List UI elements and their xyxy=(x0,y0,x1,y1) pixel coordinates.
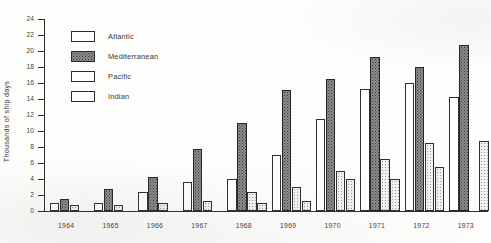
y-tick-mark xyxy=(38,131,45,132)
legend-swatch xyxy=(71,71,95,82)
legend-label: Mediterranean xyxy=(108,52,158,61)
bar-indian-1971 xyxy=(390,179,400,211)
x-axis-line xyxy=(44,211,488,212)
bar-mediterranean-1968 xyxy=(237,123,247,211)
y-tick-mark xyxy=(38,67,45,68)
bar-group-1968 xyxy=(227,19,267,211)
bar-atlantic-1970 xyxy=(316,119,326,211)
bar-mediterranean-1964 xyxy=(60,199,70,211)
y-tick-label: 12 xyxy=(12,111,34,118)
legend-label: Atlantic xyxy=(108,32,134,41)
y-tick-mark xyxy=(38,163,45,164)
y-tick-mark xyxy=(38,19,45,20)
y-tick-mark xyxy=(38,147,45,148)
bar-group-1971 xyxy=(360,19,400,211)
x-tick-label: 1964 xyxy=(44,222,88,229)
legend-item-pacific: Pacific xyxy=(71,66,158,86)
bar-atlantic-1971 xyxy=(360,89,370,211)
bar-pacific-1968 xyxy=(247,192,257,211)
y-tick-label: 20 xyxy=(12,47,34,54)
legend-label: Pacific xyxy=(108,72,131,81)
bar-atlantic-1967 xyxy=(183,182,193,211)
y-tick-label: 6 xyxy=(12,159,34,166)
chart-legend: AtlanticMediterraneanPacificIndian xyxy=(71,26,158,106)
y-tick-label: 2 xyxy=(12,191,34,198)
y-tick-mark xyxy=(38,35,45,36)
bar-indian-1968 xyxy=(257,203,267,211)
x-tick-label: 1971 xyxy=(355,222,399,229)
bar-group-1969 xyxy=(272,19,312,211)
y-tick-label: 4 xyxy=(12,175,34,182)
legend-item-indian: Indian xyxy=(71,86,158,106)
y-tick-mark xyxy=(38,195,45,196)
y-tick-label: 0 xyxy=(12,207,34,214)
x-tick-label: 1972 xyxy=(399,222,443,229)
y-tick-label: 22 xyxy=(12,31,34,38)
x-tick-label: 1965 xyxy=(88,222,132,229)
bar-mediterranean-1965 xyxy=(104,189,114,211)
y-tick-label: 8 xyxy=(12,143,34,150)
x-tick-label: 1970 xyxy=(310,222,354,229)
y-tick-label: 18 xyxy=(12,63,34,70)
bar-indian-1969 xyxy=(302,201,312,211)
legend-item-mediterranean: Mediterranean xyxy=(71,46,158,66)
x-tick-label: 1968 xyxy=(222,222,266,229)
x-tick-label: 1966 xyxy=(133,222,177,229)
bar-group-1967 xyxy=(183,19,223,211)
bar-mediterranean-1967 xyxy=(193,149,203,211)
bar-pacific-1970 xyxy=(336,171,346,211)
bar-pacific-1972 xyxy=(425,143,435,211)
bar-group-1973 xyxy=(449,19,489,211)
x-tick-label: 1967 xyxy=(177,222,221,229)
bar-indian-1970 xyxy=(346,179,356,211)
bar-pacific-1969 xyxy=(292,187,302,211)
bar-pacific-1971 xyxy=(380,159,390,211)
bar-pacific-1967 xyxy=(203,201,213,211)
legend-item-atlantic: Atlantic xyxy=(71,26,158,46)
bar-indian-1973 xyxy=(479,141,489,211)
x-tick-label: 1973 xyxy=(444,222,488,229)
bar-atlantic-1965 xyxy=(94,203,104,211)
legend-swatch xyxy=(71,51,95,62)
y-tick-mark xyxy=(38,211,45,212)
legend-label: Indian xyxy=(108,92,129,101)
bar-pacific-1966 xyxy=(158,203,168,211)
y-tick-label: 24 xyxy=(12,15,34,22)
y-tick-mark xyxy=(38,115,45,116)
bar-atlantic-1964 xyxy=(50,203,60,211)
bar-mediterranean-1973 xyxy=(459,45,469,211)
bar-group-1970 xyxy=(316,19,356,211)
bar-mediterranean-1971 xyxy=(370,57,380,211)
y-tick-mark xyxy=(38,179,45,180)
bar-mediterranean-1966 xyxy=(148,177,158,211)
bar-mediterranean-1970 xyxy=(326,79,336,211)
bar-group-1972 xyxy=(405,19,445,211)
bar-atlantic-1969 xyxy=(272,155,282,211)
bar-indian-1972 xyxy=(435,167,445,211)
bar-mediterranean-1972 xyxy=(415,67,425,211)
y-tick-mark xyxy=(38,83,45,84)
bar-atlantic-1973 xyxy=(449,97,459,211)
chart-figure: Thousands of ship days 02468101214161820… xyxy=(0,0,491,243)
bar-atlantic-1968 xyxy=(227,179,237,211)
bar-atlantic-1972 xyxy=(405,83,415,211)
legend-swatch xyxy=(71,91,95,102)
y-tick-label: 10 xyxy=(12,127,34,134)
y-tick-label: 14 xyxy=(12,95,34,102)
y-tick-label: 16 xyxy=(12,79,34,86)
x-tick-label: 1969 xyxy=(266,222,310,229)
legend-swatch xyxy=(71,31,95,42)
y-tick-mark xyxy=(38,99,45,100)
bar-atlantic-1966 xyxy=(138,192,148,211)
y-tick-mark xyxy=(38,51,45,52)
bar-mediterranean-1969 xyxy=(282,90,292,211)
